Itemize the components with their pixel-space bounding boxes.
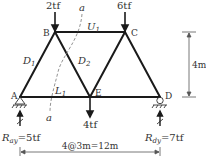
load-label-C: 6tf <box>117 0 132 11</box>
node-label-A: A <box>10 91 18 101</box>
span-dimension-label: 4@3m=12m <box>62 141 119 151</box>
node-label-C: C <box>131 28 138 38</box>
reaction-label-A: Ray=5tf <box>1 132 41 145</box>
member-label-D2: D2 <box>77 55 91 68</box>
node-label-B: B <box>43 28 50 38</box>
node-label-E: E <box>95 88 102 98</box>
reaction-label-D: Rdy=7tf <box>144 132 185 145</box>
member-label-D1: D1 <box>22 55 36 68</box>
section-label-bottom: a <box>46 112 52 123</box>
load-label-E: 4tf <box>83 119 98 130</box>
node-label-D: D <box>165 91 172 101</box>
truss-diagram: A B C D E 2tf 6tf 4tf a a U1 D1 D2 L1 Ra… <box>0 0 206 167</box>
load-label-B: 2tf <box>46 0 61 11</box>
height-dimension-label: 4m <box>192 60 206 70</box>
member-CD <box>125 32 160 97</box>
section-label-top: a <box>79 2 85 13</box>
